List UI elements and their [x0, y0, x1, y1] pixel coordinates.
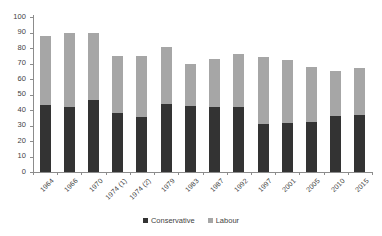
x-axis-tick-mark [251, 172, 252, 175]
bar-segment-conservative[interactable] [306, 122, 317, 172]
bar-segment-labour[interactable] [40, 36, 51, 104]
x-axis-tick-mark [372, 172, 373, 175]
y-axis-tick-label: 0 [0, 168, 26, 176]
bar-segment-conservative[interactable] [161, 104, 172, 172]
bar-segment-conservative[interactable] [354, 115, 365, 172]
x-axis-tick-mark [154, 172, 155, 175]
bar-segment-labour[interactable] [330, 71, 341, 116]
bar-segment-labour[interactable] [64, 33, 75, 107]
bar-segment-conservative[interactable] [40, 105, 51, 172]
x-axis-tick-mark [57, 172, 58, 175]
y-axis-tick-label: 20 [0, 137, 26, 145]
bar-segment-conservative[interactable] [112, 113, 123, 172]
stacked-bar-chart: 0102030405060708090100 1964196619701974 … [0, 0, 382, 236]
y-axis-tick-label: 10 [0, 152, 26, 160]
x-axis-tick-mark [227, 172, 228, 175]
legend-item-label: Conservative [151, 216, 195, 225]
x-axis-tick-mark [130, 172, 131, 175]
bar-segment-labour[interactable] [88, 33, 99, 100]
y-axis-tick-label: 40 [0, 106, 26, 114]
x-axis-tick-mark [203, 172, 204, 175]
plot-area [33, 15, 372, 172]
x-axis-tick-mark [178, 172, 179, 175]
x-axis-tick-mark [106, 172, 107, 175]
bar-segment-labour[interactable] [112, 56, 123, 114]
chart-legend: ConservativeLabour [0, 216, 382, 225]
bar-segment-labour[interactable] [306, 67, 317, 122]
bar-segment-labour[interactable] [282, 60, 293, 123]
bar-segment-conservative[interactable] [233, 107, 244, 172]
bar-segment-labour[interactable] [233, 54, 244, 107]
x-axis-tick-mark [275, 172, 276, 175]
x-axis-tick-mark [33, 172, 34, 175]
bar-segment-conservative[interactable] [185, 106, 196, 172]
x-axis-tick-mark [299, 172, 300, 175]
bar-segment-labour[interactable] [161, 47, 172, 104]
square-marker-icon [143, 218, 148, 223]
y-axis-tick-label: 80 [0, 44, 26, 52]
legend-item[interactable]: Conservative [143, 216, 195, 225]
bar-segment-labour[interactable] [258, 57, 269, 124]
x-axis-tick-mark [348, 172, 349, 175]
square-marker-icon [208, 218, 213, 223]
y-axis-tick-label: 50 [0, 90, 26, 98]
bar-segment-labour[interactable] [185, 64, 196, 107]
bar-segment-labour[interactable] [209, 59, 220, 107]
bar-segment-conservative[interactable] [258, 124, 269, 172]
x-axis-tick-mark [81, 172, 82, 175]
bar-segment-conservative[interactable] [330, 116, 341, 172]
bar-segment-conservative[interactable] [88, 100, 99, 172]
x-axis-tick-mark [324, 172, 325, 175]
bar-segment-conservative[interactable] [136, 117, 147, 172]
bar-segment-labour[interactable] [354, 68, 365, 115]
y-axis-tick-label: 30 [0, 121, 26, 129]
y-axis-tick-label: 60 [0, 75, 26, 83]
y-axis-tick-label: 70 [0, 59, 26, 67]
y-axis-tick-label: 90 [0, 28, 26, 36]
bar-segment-conservative[interactable] [282, 123, 293, 172]
bar-segment-conservative[interactable] [64, 107, 75, 172]
legend-item[interactable]: Labour [208, 216, 239, 225]
bar-segment-labour[interactable] [136, 56, 147, 117]
legend-item-label: Labour [216, 216, 239, 225]
bar-segment-conservative[interactable] [209, 107, 220, 172]
y-axis-tick-label: 100 [0, 13, 26, 21]
